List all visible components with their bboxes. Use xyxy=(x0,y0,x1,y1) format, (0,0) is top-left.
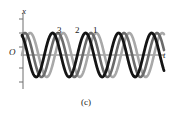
curves-group xyxy=(22,33,164,77)
origin-label: O xyxy=(9,48,16,57)
curve-label-2: 2 xyxy=(75,26,80,35)
curve-label-1: 1 xyxy=(93,26,98,35)
curve-label-3: 3 xyxy=(57,26,62,35)
figure-caption: (c) xyxy=(0,97,172,107)
y-axis-label: x xyxy=(22,7,26,16)
waveform-figure: x t O 3 2 1 (c) xyxy=(0,0,172,119)
x-axis-label: t xyxy=(163,51,166,60)
